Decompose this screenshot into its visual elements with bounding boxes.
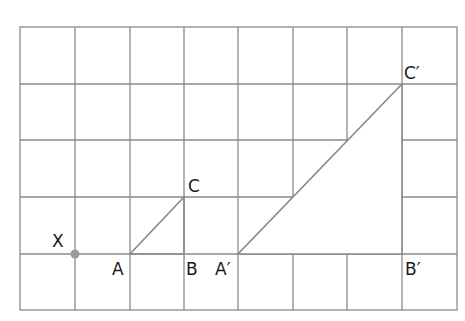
label-b: B [186, 259, 198, 279]
label-c: C [188, 176, 200, 196]
triangle-abc [130, 197, 184, 254]
label-a: A [112, 259, 124, 279]
label-a-prime: A′ [215, 259, 231, 279]
label-x: X [52, 231, 64, 251]
center-point-x [71, 250, 80, 259]
label-b-prime: B′ [405, 259, 421, 279]
enlargement-diagram: X A B C A′ B′ C′ [0, 0, 465, 321]
label-c-prime: C′ [404, 63, 420, 83]
